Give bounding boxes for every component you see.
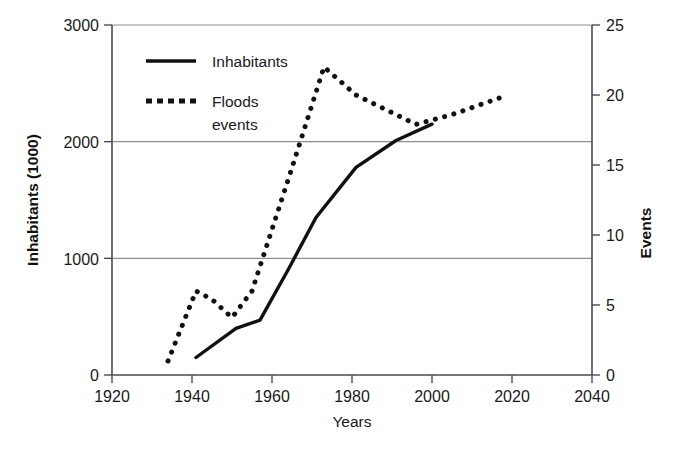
right-tick-label-15: 15 — [606, 157, 624, 174]
left-axis-title: Inhabitants (1000) — [24, 134, 41, 266]
right-tick-label-0: 0 — [606, 367, 615, 384]
right-tick-label-25: 25 — [606, 17, 624, 34]
right-tick-label-5: 5 — [606, 297, 615, 314]
left-tick-label-0: 0 — [90, 367, 99, 384]
x-tick-label-1920: 1920 — [94, 388, 130, 405]
x-tick-label-2000: 2000 — [414, 388, 450, 405]
right-tick-label-20: 20 — [606, 87, 624, 104]
left-tick-label-1000: 1000 — [63, 251, 99, 268]
legend-label-floods: Floods — [212, 93, 259, 110]
left-tick-label-3000: 3000 — [63, 17, 99, 34]
x-tick-label-1960: 1960 — [254, 388, 290, 405]
right-axis-title: Events — [637, 208, 654, 259]
flood-events-population-chart: 0 1000 2000 3000 0 5 10 15 20 25 1920 19… — [0, 0, 677, 451]
x-tick-label-1940: 1940 — [174, 388, 210, 405]
legend-label-inhabitants: Inhabitants — [212, 53, 288, 70]
legend-label-floods-events-line2: events — [212, 116, 258, 133]
x-tick-label-2040: 2040 — [574, 388, 610, 405]
right-tick-label-10: 10 — [606, 227, 624, 244]
x-tick-label-1980: 1980 — [334, 388, 370, 405]
left-tick-label-2000: 2000 — [63, 134, 99, 151]
x-tick-label-2020: 2020 — [494, 388, 530, 405]
chart-background — [0, 0, 677, 451]
x-axis-title: Years — [332, 413, 371, 430]
